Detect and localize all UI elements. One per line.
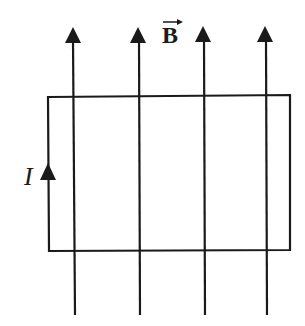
arrowhead-3 bbox=[195, 26, 211, 42]
field-label: B bbox=[162, 22, 178, 49]
arrowhead-2 bbox=[130, 27, 146, 43]
arrowhead-4 bbox=[257, 26, 273, 42]
current-arrowhead bbox=[40, 163, 56, 180]
field-line-3 bbox=[204, 40, 205, 315]
current-label: I bbox=[24, 162, 33, 192]
field-line-1 bbox=[73, 40, 75, 315]
field-line-2 bbox=[139, 40, 140, 315]
diagram-canvas bbox=[0, 0, 305, 326]
current-loop bbox=[48, 95, 290, 251]
field-line-4 bbox=[266, 40, 267, 315]
arrowhead-1 bbox=[65, 27, 81, 43]
